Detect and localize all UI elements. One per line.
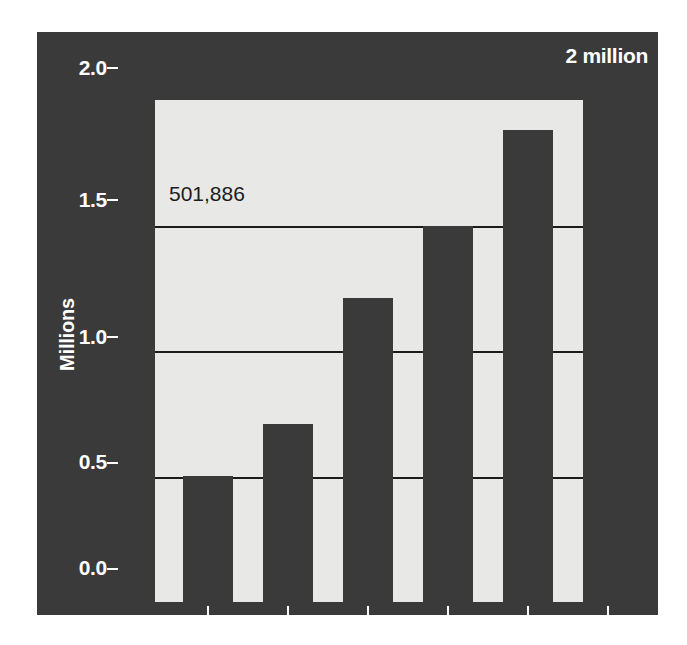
x-tick-label-1990: 1990 [323,616,413,639]
x-tick-mark-1985 [287,606,289,616]
bar-2000[interactable] [503,130,553,602]
bar-2003[interactable] [583,100,633,602]
y-tick-mark-1-5 [107,199,118,201]
y-tick-label-0-5: 0.5 [41,450,107,474]
y-tick-label-2-0: 2.0 [41,56,107,80]
x-tick-label-1980: 1980 [163,616,253,639]
bar-1985[interactable] [263,424,313,602]
gridline-1-5 [155,226,625,228]
x-tick-mark-1995 [447,606,449,616]
bar-value-label-1980: 501,886 [169,182,245,206]
y-tick-mark-0-0 [107,568,118,570]
x-tick-mark-2000 [527,606,529,616]
top-right-note: 2 million [566,44,648,68]
bar-1980[interactable] [183,476,233,602]
x-tick-mark-1990 [367,606,369,616]
plot-area: 501,886 [155,100,625,602]
bar-1990[interactable] [343,298,393,602]
bar-1995[interactable] [423,226,473,603]
y-tick-mark-2-0 [107,67,118,69]
y-tick-label-0-0: 0.0 [41,556,107,580]
chart-panel: 2 million Millions 2.0 1.5 1.0 0.5 0.0 [37,32,658,615]
x-tick-label-1995: 1995 [403,616,493,639]
x-tick-label-1985: 1985 [243,616,333,639]
y-tick-mark-1-0 [107,336,118,338]
y-tick-mark-0-5 [107,462,118,464]
x-tick-mark-2003 [607,606,609,616]
x-tick-label-2003: 2003 [563,616,653,639]
chart-figure: 2 million Millions 2.0 1.5 1.0 0.5 0.0 [0,0,687,645]
x-tick-mark-1980 [207,606,209,616]
y-tick-label-1-0: 1.0 [41,325,107,349]
y-tick-label-1-5: 1.5 [41,188,107,212]
x-tick-label-2000: 2000 [483,616,573,639]
